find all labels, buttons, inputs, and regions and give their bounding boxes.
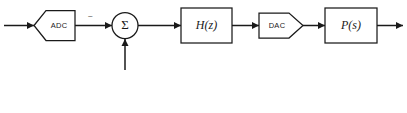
block-adc[interactable]: ADC	[34, 11, 75, 41]
hz-label: H(z)	[195, 18, 217, 32]
arrow-head-icon	[27, 22, 34, 29]
adc-label: ADC	[51, 21, 68, 30]
block-hz[interactable]: H(z)	[181, 8, 232, 43]
arrow-head-icon	[174, 22, 181, 29]
connection-hz-to-dac	[232, 22, 259, 29]
block-dac[interactable]: DAC	[259, 13, 303, 38]
dac-label: DAC	[269, 21, 286, 30]
arrow-head-icon	[318, 22, 325, 29]
arrow-head-icon	[252, 22, 259, 29]
ps-label: P(s)	[340, 18, 361, 32]
connection-sum-to-hz	[138, 22, 181, 29]
summing-junction-label: Σ	[121, 17, 129, 32]
block-diagram-svg: ADC Σ − H(z) DAC P(s)	[0, 0, 407, 113]
connection-adc-to-sum	[75, 22, 112, 29]
connection-ps-to-output	[377, 22, 403, 29]
arrow-head-icon	[122, 39, 129, 46]
connection-dac-to-ps	[303, 22, 325, 29]
arrow-head-icon	[105, 22, 112, 29]
arrow-head-icon	[396, 22, 403, 29]
connection-input-to-adc	[4, 22, 34, 29]
block-ps[interactable]: P(s)	[325, 8, 377, 43]
block-diagram-canvas: ADC Σ − H(z) DAC P(s)	[0, 0, 407, 113]
connection-reference-to-sum	[122, 39, 129, 70]
block-summing-junction[interactable]: Σ	[112, 13, 138, 39]
minus-sign-label: −	[87, 11, 92, 21]
